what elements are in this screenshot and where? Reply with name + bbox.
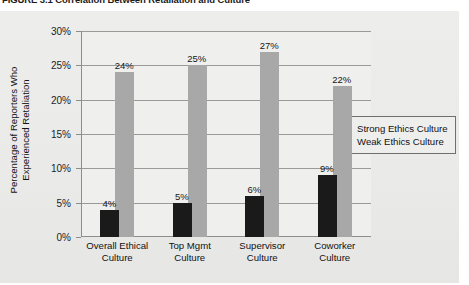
chart-legend: Strong Ethics CultureWeak Ethics Culture xyxy=(337,116,456,154)
y-axis-tick-label: 0% xyxy=(57,232,71,243)
x-axis-category-line: Coworker xyxy=(292,240,378,252)
y-axis-title: Percentage of Reporters Who Experienced … xyxy=(8,27,32,233)
bar-value-label: 9% xyxy=(312,163,342,174)
y-axis-tick-mark xyxy=(76,134,81,135)
bar-strong[interactable] xyxy=(100,210,119,237)
y-axis-tick-mark xyxy=(76,203,81,204)
bar-value-label: 22% xyxy=(327,74,357,85)
y-axis-ticks: 0%5%10%15%20%25%30% xyxy=(26,31,77,237)
bar-group: 22%9% xyxy=(318,31,352,237)
y-axis-tick-mark xyxy=(76,168,81,169)
bar-strong[interactable] xyxy=(173,203,192,237)
y-axis-tick-label: 10% xyxy=(51,163,71,174)
bar-value-label: 5% xyxy=(167,191,197,202)
x-axis-category-labels: Overall EthicalCultureTop MgmtCultureSup… xyxy=(81,240,371,270)
bar-group: 27%6% xyxy=(245,31,279,237)
bar-value-label: 27% xyxy=(254,40,284,51)
figure-container: FIGURE 3.1 Correlation Between Retaliati… xyxy=(0,0,469,285)
legend-item-label: Strong Ethics Culture xyxy=(357,123,448,134)
y-axis-tick-label: 15% xyxy=(51,129,71,140)
y-axis-tick-mark xyxy=(76,65,81,66)
figure-caption-clipped: FIGURE 3.1 Correlation Between Retaliati… xyxy=(0,0,469,9)
figure-caption-text: FIGURE 3.1 Correlation Between Retaliati… xyxy=(2,0,250,5)
bar-group: 25%5% xyxy=(173,31,207,237)
bar-value-label: 4% xyxy=(94,198,124,209)
bar-value-label: 25% xyxy=(182,53,212,64)
y-axis-tick-mark xyxy=(76,237,81,238)
bar-group: 24%4% xyxy=(100,31,134,237)
bar-value-label: 24% xyxy=(109,60,139,71)
y-axis-title-line2: Experienced Retaliation xyxy=(20,27,32,233)
y-axis-tick-label: 20% xyxy=(51,94,71,105)
x-axis-category-label: CoworkerCulture xyxy=(292,240,378,263)
y-axis-tick-mark xyxy=(76,100,81,101)
legend-item-weak[interactable]: Weak Ethics Culture xyxy=(344,135,448,148)
bar-value-label: 6% xyxy=(239,184,269,195)
legend-item-strong[interactable]: Strong Ethics Culture xyxy=(344,122,448,135)
y-axis-tick-label: 5% xyxy=(57,197,71,208)
y-axis-title-line1: Percentage of Reporters Who xyxy=(8,27,20,233)
legend-item-label: Weak Ethics Culture xyxy=(357,136,444,147)
y-axis-tick-mark xyxy=(76,31,81,32)
y-axis-tick-label: 30% xyxy=(51,26,71,37)
bar-strong[interactable] xyxy=(318,175,337,237)
x-axis-category-line: Culture xyxy=(292,252,378,264)
y-axis-tick-label: 25% xyxy=(51,60,71,71)
bar-strong[interactable] xyxy=(245,196,264,237)
